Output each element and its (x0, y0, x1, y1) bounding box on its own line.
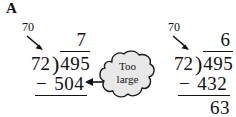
dividend-right: 495 (203, 51, 233, 74)
too-large-callout: Too large (99, 50, 156, 101)
estimate-hint-left: 70 (22, 21, 34, 33)
callout-line-2: large (99, 73, 156, 86)
long-division-figure: A 70 7 72)495 −504 Too la (0, 0, 236, 117)
divisor-dividend-row-left: 72)495 (31, 52, 90, 74)
remainder-right: 63 (176, 98, 230, 117)
panel-label: A (6, 1, 17, 16)
subtraction-rule-right (178, 95, 230, 96)
callout-text: Too large (99, 60, 156, 86)
product-right: 432 (197, 73, 227, 94)
dividend-left: 495 (60, 51, 90, 74)
product-left: 504 (54, 73, 84, 94)
divisor-right: 72 (174, 53, 193, 74)
quotient-left: 7 (36, 30, 86, 49)
subtraction-row-right: −432 (179, 74, 227, 93)
quotient-right: 6 (176, 30, 230, 49)
subtraction-rule-left (35, 95, 87, 96)
subtraction-row-left: −504 (36, 74, 84, 93)
divisor-dividend-row-right: 72)495 (174, 52, 233, 74)
divisor-left: 72 (31, 53, 50, 74)
minus-sign-left: − (36, 74, 54, 93)
minus-sign-right: − (179, 74, 197, 93)
callout-line-1: Too (99, 60, 156, 73)
